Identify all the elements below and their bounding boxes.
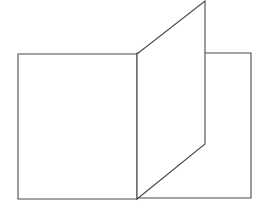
left-rectangle [18,54,137,199]
folded-panels-diagram [0,0,267,213]
